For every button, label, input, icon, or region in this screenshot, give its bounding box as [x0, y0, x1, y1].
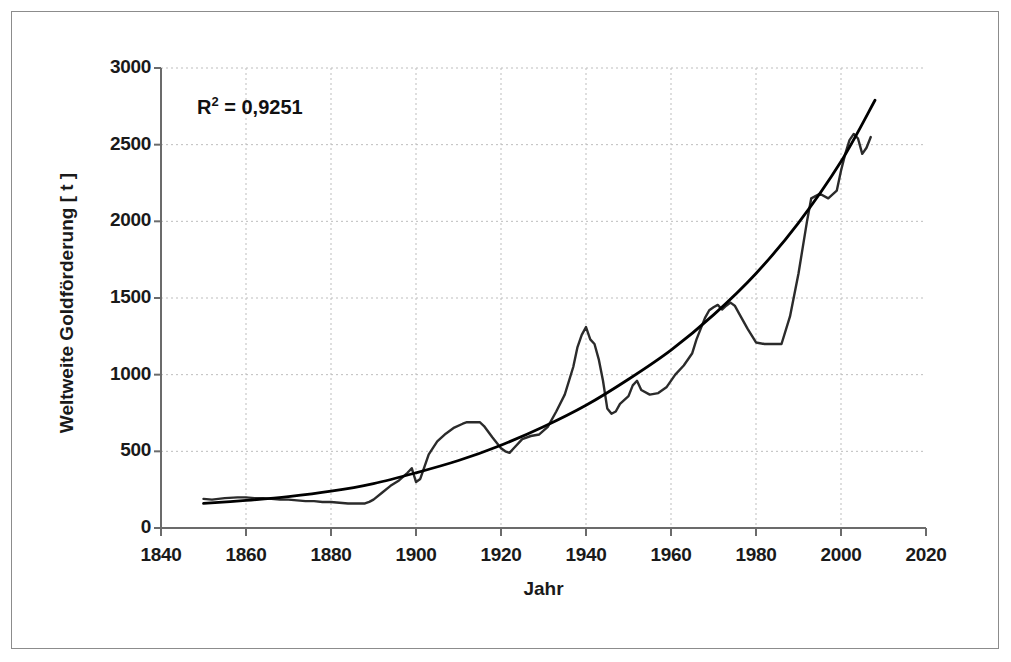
x-axis-tick-label: 1860 [206, 544, 286, 566]
x-axis-tick-label: 1920 [461, 544, 541, 566]
x-axis-tick-label: 2020 [886, 544, 966, 566]
r-squared-annotation: R2 = 0,9251 [197, 96, 303, 119]
chart-area: 050010001500200025003000 184018601880190… [0, 0, 1011, 662]
x-axis-tick-label: 1880 [291, 544, 371, 566]
x-axis-tick-label: 1980 [716, 544, 796, 566]
r-squared-symbol: R [197, 96, 211, 118]
x-axis-tick-label: 1940 [546, 544, 626, 566]
screenshot-root: 050010001500200025003000 184018601880190… [0, 0, 1011, 662]
series-line-gold-production [204, 134, 871, 504]
x-axis-title: Jahr [161, 578, 926, 600]
x-axis-tick-label: 1960 [631, 544, 711, 566]
x-axis-ticks [161, 528, 926, 536]
horizontal-gridlines [161, 68, 926, 451]
y-axis-title: Weltweite Goldförderung [ t ] [56, 113, 78, 493]
y-axis-tick-label: 0 [59, 516, 151, 538]
x-axis-tick-label: 1900 [376, 544, 456, 566]
r-squared-exponent: 2 [211, 94, 218, 109]
y-axis-tick-label: 3000 [59, 56, 151, 78]
x-axis-tick-label: 2000 [801, 544, 881, 566]
x-axis-tick-label: 1840 [121, 544, 201, 566]
y-axis-ticks [154, 68, 161, 528]
r-squared-value: = 0,9251 [219, 96, 303, 118]
series-line-trend [204, 100, 876, 503]
